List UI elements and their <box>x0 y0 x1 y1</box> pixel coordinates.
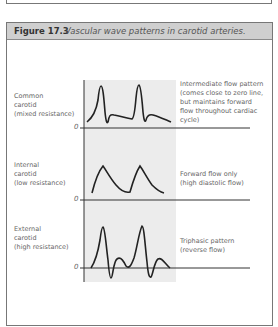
zero-label-internal: 0 <box>74 195 78 203</box>
zero-label-external: 0 <box>74 263 78 271</box>
vessel-label-external-carotid: External carotid (high resistance) <box>14 225 69 252</box>
vessel-label-common-carotid: Common carotid (mixed resistance) <box>14 92 74 119</box>
description-common-carotid: Intermediate flow pattern (comes close t… <box>180 80 263 125</box>
description-internal-carotid: Forward flow only (high diastolic flow) <box>180 170 244 188</box>
zero-label-common: 0 <box>74 123 78 131</box>
vessel-label-internal-carotid: Internal carotid (low resistance) <box>14 161 66 188</box>
description-external-carotid: Triphasic pattern (reverse flow) <box>180 237 234 255</box>
